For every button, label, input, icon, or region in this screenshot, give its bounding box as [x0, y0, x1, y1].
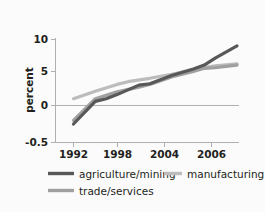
line-chart: 10 5 0 -0.5 percent 1992 1998 2004 2006 …: [0, 0, 265, 212]
y-tick-label-5: 5: [41, 65, 48, 77]
y-tick-label-neg05: -0.5: [25, 136, 48, 148]
legend-label-trade-services: trade/services: [79, 185, 154, 197]
chart-figure: 10 5 0 -0.5 percent 1992 1998 2004 2006 …: [0, 0, 265, 212]
legend-label-manufacturing: manufacturing: [187, 168, 264, 180]
y-tick-label-10: 10: [33, 33, 48, 45]
x-tick-label-2006: 2006: [197, 148, 226, 160]
x-tick-label-1998: 1998: [103, 148, 132, 160]
x-tick-label-1992: 1992: [59, 148, 88, 160]
y-tick-label-0: 0: [41, 99, 48, 111]
x-tick-label-2004: 2004: [150, 148, 179, 160]
y-axis-title: percent: [23, 67, 35, 113]
legend-label-agriculture-mining: agriculture/mining: [79, 168, 176, 180]
